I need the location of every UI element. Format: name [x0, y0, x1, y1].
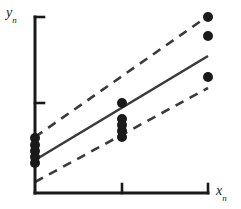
y-axis-label: yn [6, 6, 17, 23]
fit-line [35, 56, 208, 160]
data-point [203, 12, 213, 22]
scatter-plot-figure: yn xn [0, 0, 241, 209]
data-point [30, 158, 40, 168]
y-axis-label-subscript: n [12, 15, 17, 25]
plot-canvas [0, 0, 241, 209]
regression-line-group [35, 56, 208, 160]
data-point [203, 72, 213, 82]
data-point [117, 132, 127, 142]
x-axis-label: xn [216, 184, 227, 201]
x-axis-label-subscript: n [222, 193, 227, 203]
data-point [203, 31, 213, 41]
data-point [117, 98, 127, 108]
data-points-group [30, 12, 213, 168]
